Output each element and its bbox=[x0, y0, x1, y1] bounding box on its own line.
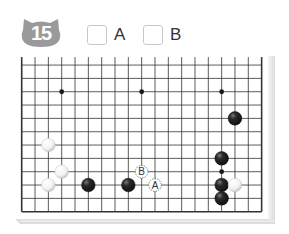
black-stone bbox=[228, 112, 242, 126]
svg-text:B: B bbox=[138, 166, 145, 177]
white-stone bbox=[42, 178, 56, 192]
svg-text:A: A bbox=[152, 180, 159, 191]
choice-b-checkbox[interactable] bbox=[143, 25, 163, 45]
white-stone bbox=[228, 178, 242, 192]
choice-b[interactable]: B bbox=[143, 25, 181, 45]
star-point bbox=[59, 89, 64, 94]
choice-a[interactable]: A bbox=[87, 25, 125, 45]
choice-a-checkbox[interactable] bbox=[87, 25, 107, 45]
white-stone bbox=[42, 138, 56, 152]
black-stone bbox=[215, 192, 229, 206]
problem-number: 15 bbox=[21, 22, 61, 44]
star-point bbox=[139, 89, 144, 94]
black-stone bbox=[122, 178, 136, 192]
star-point bbox=[219, 169, 224, 174]
marker-a: A bbox=[149, 179, 162, 192]
choice-a-label: A bbox=[114, 25, 125, 45]
white-stone bbox=[55, 165, 69, 179]
black-stone bbox=[215, 152, 229, 166]
problem-number-badge: 15 bbox=[21, 16, 61, 48]
black-stone bbox=[82, 178, 96, 192]
move-markers: AB bbox=[135, 165, 161, 191]
choice-b-label: B bbox=[170, 25, 181, 45]
board-shadow-right bbox=[268, 56, 275, 224]
black-stone bbox=[215, 178, 229, 192]
marker-b: B bbox=[135, 165, 148, 178]
star-point bbox=[219, 89, 224, 94]
